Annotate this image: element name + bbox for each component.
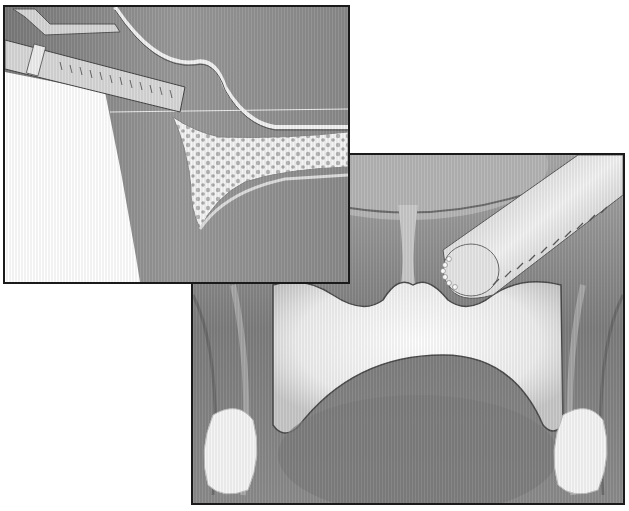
inset-cross-section-panel <box>3 5 350 284</box>
inset-illustration <box>5 7 348 282</box>
